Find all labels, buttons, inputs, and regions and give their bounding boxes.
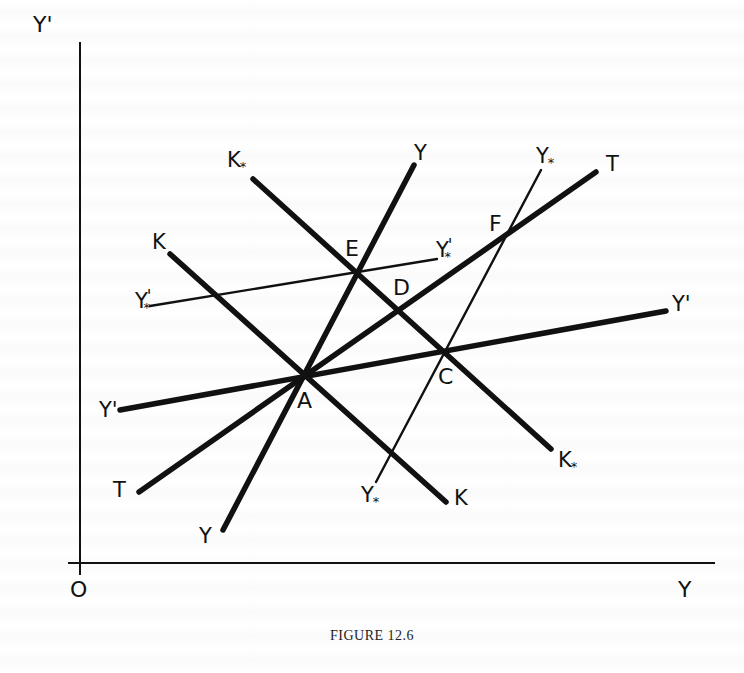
label-T-top: T [606, 154, 619, 175]
label-Y-prime-left: Y' [99, 400, 118, 421]
label-Y-top: Y [414, 143, 427, 164]
label-T-bottom: T [113, 480, 126, 501]
axis-label-origin: O [70, 579, 87, 601]
label-Y-star-bottom: Y* [361, 485, 379, 508]
point-label-D: D [393, 277, 410, 299]
diagram-canvas [0, 0, 744, 673]
line-Y [223, 165, 414, 530]
figure-caption: FIGURE 12.6 [0, 628, 744, 644]
point-label-C: C [438, 366, 453, 388]
label-Y-prime-star-right: Y'* [436, 237, 451, 263]
line-T [139, 172, 596, 492]
point-label-E: E [345, 238, 359, 260]
label-K-top: K [152, 232, 166, 253]
label-Y-prime-star-left: Y'* [135, 288, 150, 314]
label-Y-star-top: Y* [536, 146, 554, 169]
axis-label-y-prime: Y' [33, 14, 53, 36]
point-label-A: A [297, 390, 312, 412]
axis-label-y: Y [678, 579, 691, 601]
label-K-star-top: K* [227, 150, 246, 173]
label-Y-bottom: Y [199, 526, 212, 547]
line-Y-prime [120, 311, 666, 410]
label-K-bottom: K [454, 488, 468, 509]
label-K-star-bottom: K* [558, 450, 577, 473]
label-Y-prime-right: Y' [672, 294, 691, 315]
line-Y-star [376, 170, 541, 482]
point-label-F: F [489, 213, 502, 235]
